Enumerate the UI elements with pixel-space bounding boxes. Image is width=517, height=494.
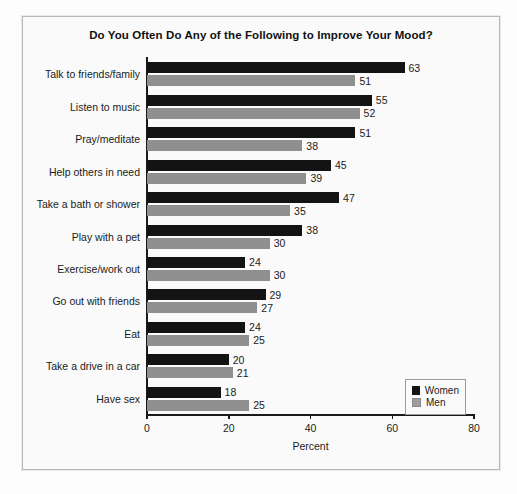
bar-women: 20 bbox=[147, 354, 229, 365]
x-axis-tick-label: 20 bbox=[223, 422, 235, 434]
bar-men: 38 bbox=[147, 140, 302, 151]
bar-group: Help others in need4539 bbox=[147, 160, 474, 184]
category-label: Exercise/work out bbox=[57, 263, 140, 275]
legend-label-men: Men bbox=[426, 397, 445, 408]
category-label: Eat bbox=[124, 328, 140, 340]
x-axis-tick-label: 80 bbox=[468, 422, 480, 434]
bar-value-label: 35 bbox=[294, 205, 306, 217]
bar-value-label: 27 bbox=[261, 302, 273, 314]
bar-men: 51 bbox=[147, 75, 355, 86]
bar-group: Play with a pet3830 bbox=[147, 225, 474, 249]
chart-page: Do You Often Do Any of the Following to … bbox=[0, 0, 517, 494]
category-label: Pray/meditate bbox=[75, 133, 140, 145]
bar-value-label: 29 bbox=[270, 289, 282, 301]
bar-value-label: 38 bbox=[306, 140, 318, 152]
bar-value-label: 30 bbox=[274, 269, 286, 281]
bar-value-label: 63 bbox=[409, 62, 421, 74]
x-axis-tick-label: 0 bbox=[144, 422, 150, 434]
legend-swatch-men bbox=[412, 398, 421, 407]
x-axis-tick-label: 60 bbox=[386, 422, 398, 434]
bar-value-label: 38 bbox=[306, 224, 318, 236]
bar-women: 55 bbox=[147, 95, 372, 106]
bar-group: Listen to music5552 bbox=[147, 95, 474, 119]
category-label: Have sex bbox=[96, 393, 140, 405]
bar-value-label: 51 bbox=[359, 127, 371, 139]
legend-swatch-women bbox=[412, 386, 420, 395]
bar-value-label: 52 bbox=[364, 107, 376, 119]
chart-legend: Women Men bbox=[405, 379, 466, 415]
bar-men: 27 bbox=[147, 302, 257, 313]
x-axis-title: Percent bbox=[147, 440, 474, 452]
bar-group: Go out with friends2927 bbox=[147, 289, 474, 313]
x-axis-tick-label: 40 bbox=[305, 422, 317, 434]
bar-value-label: 24 bbox=[249, 256, 261, 268]
bar-men: 52 bbox=[147, 108, 360, 119]
bar-men: 35 bbox=[147, 205, 290, 216]
plot-area: Percent Talk to friends/family6351Listen… bbox=[147, 57, 474, 414]
bar-value-label: 30 bbox=[274, 237, 286, 249]
category-label: Take a bath or shower bbox=[37, 198, 140, 210]
bar-group: Talk to friends/family6351 bbox=[147, 62, 474, 86]
bar-women: 18 bbox=[147, 387, 221, 398]
bar-value-label: 25 bbox=[253, 399, 265, 411]
x-axis-tick bbox=[392, 414, 394, 419]
bar-men: 39 bbox=[147, 173, 306, 184]
bar-group: Exercise/work out2430 bbox=[147, 257, 474, 281]
bar-group: Pray/meditate5138 bbox=[147, 127, 474, 151]
bar-group: Take a drive in a car2021 bbox=[147, 354, 474, 378]
bar-women: 29 bbox=[147, 289, 266, 300]
category-label: Listen to music bbox=[70, 101, 140, 113]
bar-women: 45 bbox=[147, 160, 331, 171]
bar-men: 30 bbox=[147, 238, 270, 249]
x-axis-tick bbox=[310, 414, 312, 419]
bar-value-label: 51 bbox=[359, 75, 371, 87]
bar-women: 47 bbox=[147, 192, 339, 203]
bar-women: 24 bbox=[147, 257, 245, 268]
chart-frame: Do You Often Do Any of the Following to … bbox=[22, 16, 500, 470]
category-label: Go out with friends bbox=[52, 295, 140, 307]
x-axis-tick bbox=[473, 414, 475, 419]
bar-value-label: 18 bbox=[225, 386, 237, 398]
category-label: Play with a pet bbox=[72, 231, 140, 243]
category-label: Talk to friends/family bbox=[45, 68, 140, 80]
bar-value-label: 39 bbox=[310, 172, 322, 184]
bar-women: 38 bbox=[147, 225, 302, 236]
bar-value-label: 55 bbox=[376, 94, 388, 106]
bar-group: Take a bath or shower4735 bbox=[147, 192, 474, 216]
bar-women: 51 bbox=[147, 127, 355, 138]
bar-women: 63 bbox=[147, 62, 405, 73]
bar-women: 24 bbox=[147, 322, 245, 333]
bar-men: 25 bbox=[147, 335, 249, 346]
bar-value-label: 45 bbox=[335, 159, 347, 171]
legend-label-women: Women bbox=[425, 385, 459, 396]
category-label: Help others in need bbox=[49, 166, 140, 178]
bar-value-label: 20 bbox=[233, 354, 245, 366]
bar-men: 25 bbox=[147, 400, 249, 411]
bar-value-label: 47 bbox=[343, 192, 355, 204]
bar-value-label: 24 bbox=[249, 321, 261, 333]
legend-item-women: Women bbox=[412, 385, 459, 396]
bar-group: Eat2425 bbox=[147, 322, 474, 346]
chart-title: Do You Often Do Any of the Following to … bbox=[23, 29, 499, 41]
x-axis-tick bbox=[228, 414, 230, 419]
legend-item-men: Men bbox=[412, 397, 459, 408]
category-label: Take a drive in a car bbox=[46, 360, 140, 372]
bar-men: 21 bbox=[147, 367, 233, 378]
bar-men: 30 bbox=[147, 270, 270, 281]
bar-value-label: 21 bbox=[237, 367, 249, 379]
x-axis-tick bbox=[146, 414, 148, 419]
bar-value-label: 25 bbox=[253, 334, 265, 346]
